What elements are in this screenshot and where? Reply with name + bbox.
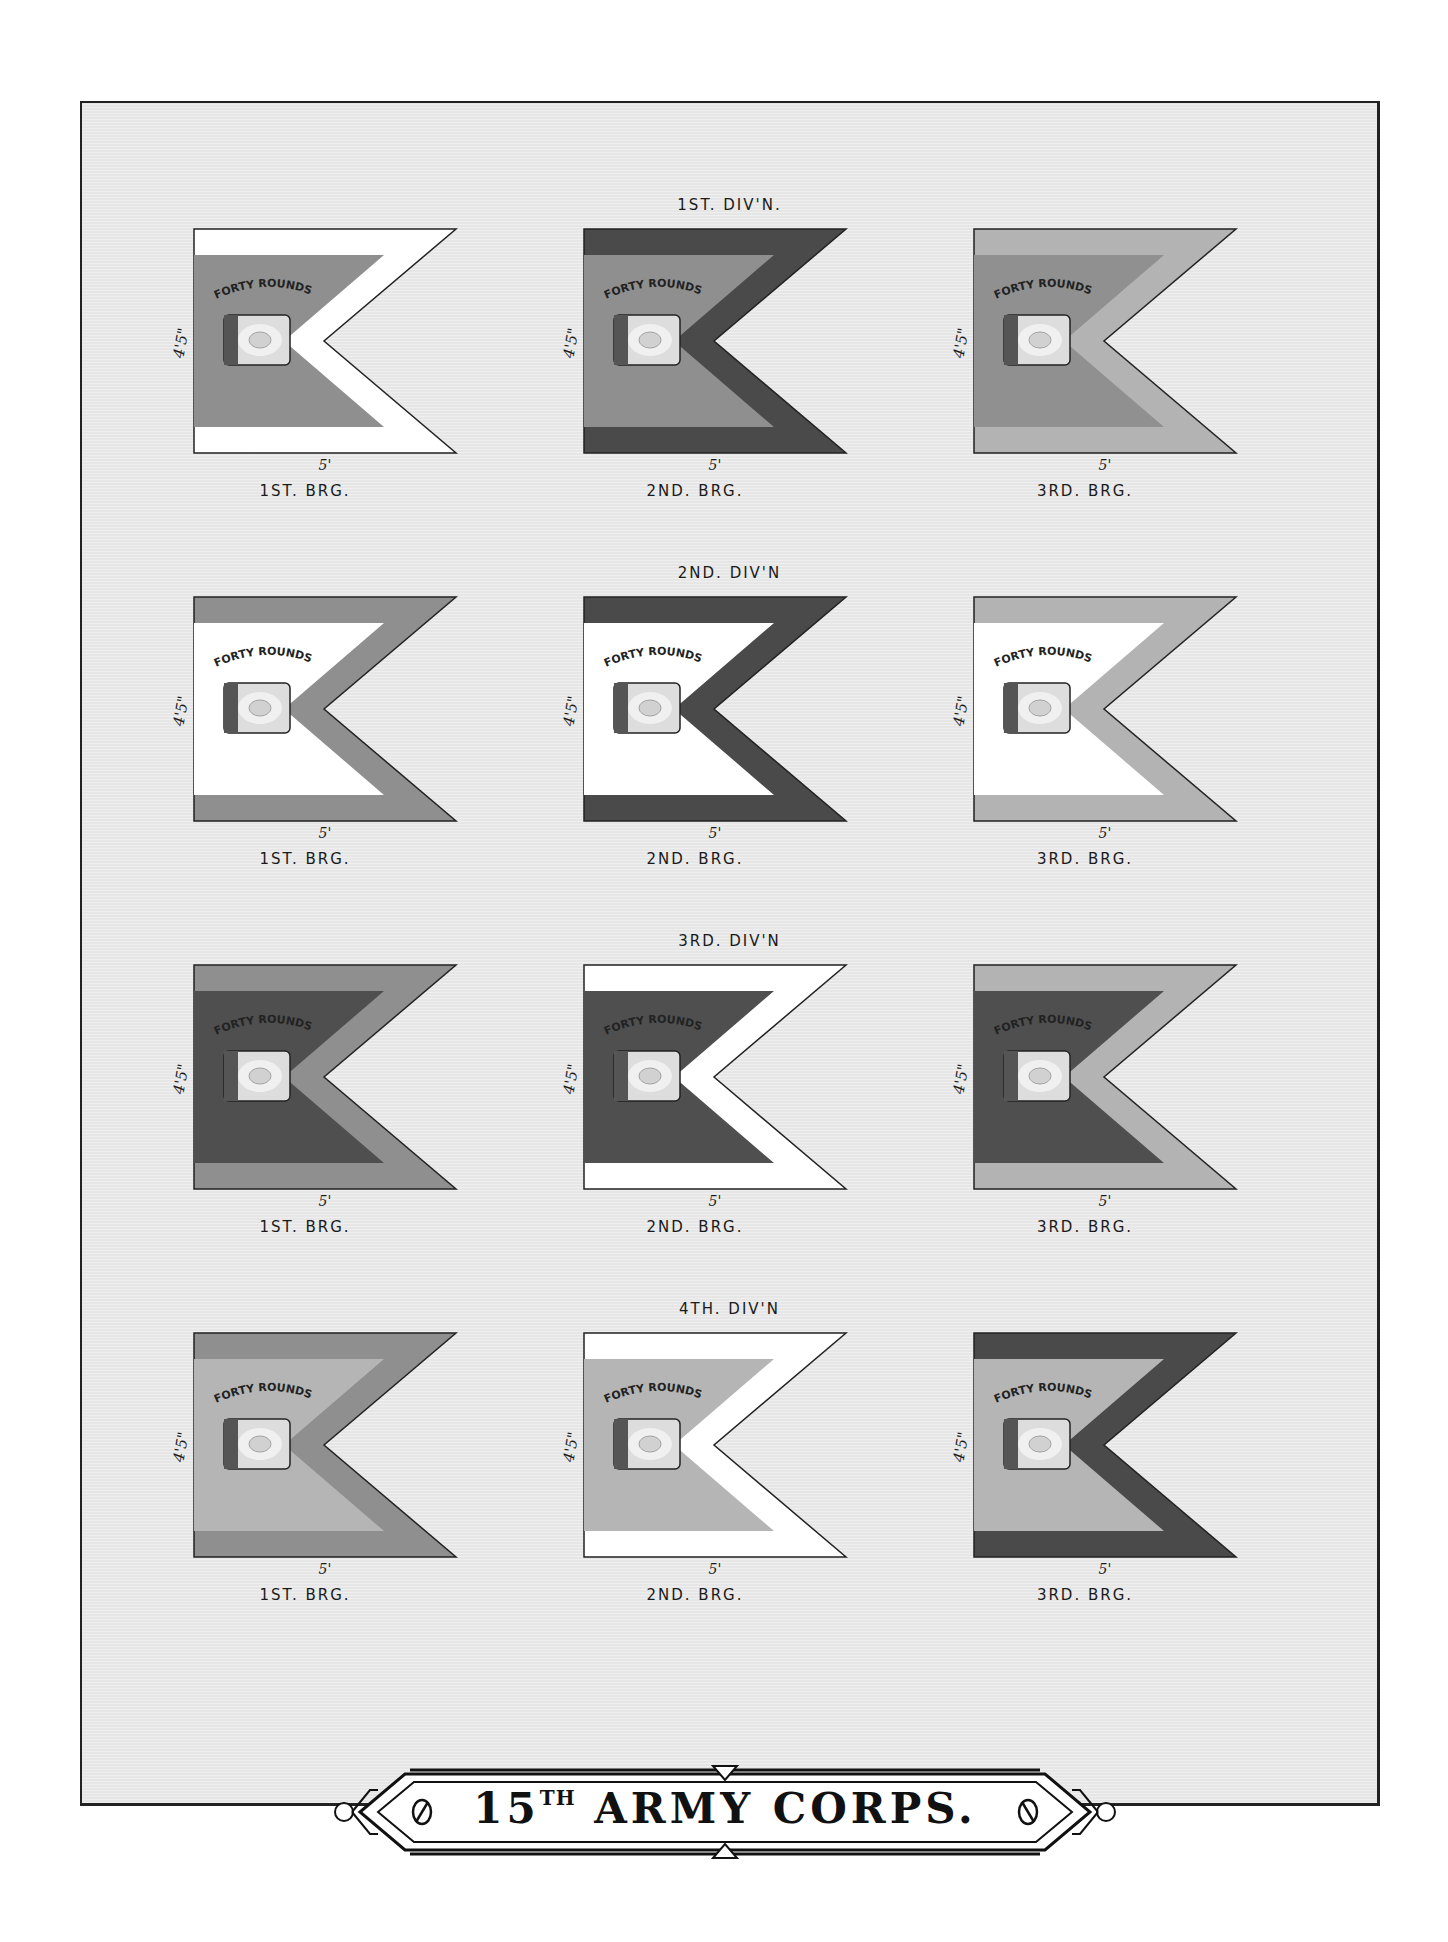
brigade-label: 2ND. BRG. [595, 1586, 795, 1604]
brigade-label: 3RD. BRG. [985, 482, 1185, 500]
swallowtail-guidon-icon: FORTY ROUNDS [584, 229, 846, 453]
swallowtail-guidon-icon: FORTY ROUNDS [194, 229, 456, 453]
width-dimension: 5' [1085, 1561, 1125, 1577]
swallowtail-guidon-icon: FORTY ROUNDS [974, 229, 1236, 453]
swallowtail-guidon-icon: FORTY ROUNDS [584, 1333, 846, 1557]
width-dimension: 5' [695, 1193, 735, 1209]
brigade-label: 1ST. BRG. [205, 850, 405, 868]
cartridge-box-icon [614, 1419, 680, 1469]
swallowtail-guidon-icon: FORTY ROUNDS [194, 1333, 456, 1557]
swallowtail-guidon-icon: FORTY ROUNDS [974, 597, 1236, 821]
flag-d1-b3: FORTY ROUNDS 4'5"5'3RD. BRG. [950, 229, 1270, 529]
division-title-2: 2ND. DIV'N [82, 564, 1377, 582]
height-dimension: 4'5" [170, 1063, 193, 1096]
brigade-label: 1ST. BRG. [205, 1218, 405, 1236]
height-dimension: 4'5" [560, 1063, 583, 1096]
swallowtail-guidon-icon: FORTY ROUNDS [974, 965, 1236, 1189]
title-number: 15 [473, 1784, 539, 1833]
brigade-label: 1ST. BRG. [205, 482, 405, 500]
height-dimension: 4'5" [170, 695, 193, 728]
brigade-label: 3RD. BRG. [985, 1218, 1185, 1236]
flag-d4-b2: FORTY ROUNDS 4'5"5'2ND. BRG. [560, 1333, 880, 1633]
plate-title: 15TH ARMY CORPS. [330, 1784, 1120, 1833]
width-dimension: 5' [1085, 1193, 1125, 1209]
swallowtail-guidon-icon: FORTY ROUNDS [584, 597, 846, 821]
cartridge-box-icon [1004, 1419, 1070, 1469]
brigade-label: 2ND. BRG. [595, 1218, 795, 1236]
flag-d4-b3: FORTY ROUNDS 4'5"5'3RD. BRG. [950, 1333, 1270, 1633]
height-dimension: 4'5" [950, 327, 973, 360]
cartridge-box-icon [1004, 1051, 1070, 1101]
height-dimension: 4'5" [560, 1431, 583, 1464]
brigade-label: 2ND. BRG. [595, 850, 795, 868]
cartridge-box-icon [224, 1051, 290, 1101]
width-dimension: 5' [305, 1561, 345, 1577]
cartridge-box-icon [1004, 683, 1070, 733]
flag-d3-b1: FORTY ROUNDS 4'5"5'1ST. BRG. [170, 965, 490, 1265]
cartridge-box-icon [614, 683, 680, 733]
flag-d3-b2: FORTY ROUNDS 4'5"5'2ND. BRG. [560, 965, 880, 1265]
swallowtail-guidon-icon: FORTY ROUNDS [194, 597, 456, 821]
height-dimension: 4'5" [950, 1063, 973, 1096]
swallowtail-guidon-icon: FORTY ROUNDS [194, 965, 456, 1189]
width-dimension: 5' [305, 825, 345, 841]
brigade-label: 2ND. BRG. [595, 482, 795, 500]
flag-d2-b1: FORTY ROUNDS 4'5"5'1ST. BRG. [170, 597, 490, 897]
title-suffix: TH [540, 1786, 576, 1810]
swallowtail-guidon-icon: FORTY ROUNDS [584, 965, 846, 1189]
flag-d1-b1: FORTY ROUNDS 4'5"5'1ST. BRG. [170, 229, 490, 529]
flag-d4-b1: FORTY ROUNDS 4'5"5'1ST. BRG. [170, 1333, 490, 1633]
plate-frame: 1ST. DIV'N. 2ND. DIV'N 3RD. DIV'N 4TH. D… [80, 101, 1380, 1806]
cartridge-box-icon [614, 1051, 680, 1101]
title-banner: 15TH ARMY CORPS. [330, 1762, 1120, 1862]
width-dimension: 5' [695, 825, 735, 841]
cartridge-box-icon [1004, 315, 1070, 365]
flag-d3-b3: FORTY ROUNDS 4'5"5'3RD. BRG. [950, 965, 1270, 1265]
height-dimension: 4'5" [950, 695, 973, 728]
brigade-label: 1ST. BRG. [205, 1586, 405, 1604]
height-dimension: 4'5" [560, 327, 583, 360]
division-title-1: 1ST. DIV'N. [82, 196, 1377, 214]
cartridge-box-icon [224, 683, 290, 733]
brigade-label: 3RD. BRG. [985, 850, 1185, 868]
height-dimension: 4'5" [950, 1431, 973, 1464]
width-dimension: 5' [1085, 825, 1125, 841]
flag-d2-b2: FORTY ROUNDS 4'5"5'2ND. BRG. [560, 597, 880, 897]
flag-d2-b3: FORTY ROUNDS 4'5"5'3RD. BRG. [950, 597, 1270, 897]
flag-d1-b2: FORTY ROUNDS 4'5"5'2ND. BRG. [560, 229, 880, 529]
cartridge-box-icon [224, 315, 290, 365]
division-title-3: 3RD. DIV'N [82, 932, 1377, 950]
width-dimension: 5' [1085, 457, 1125, 473]
width-dimension: 5' [305, 457, 345, 473]
swallowtail-guidon-icon: FORTY ROUNDS [974, 1333, 1236, 1557]
height-dimension: 4'5" [170, 1431, 193, 1464]
height-dimension: 4'5" [560, 695, 583, 728]
division-title-4: 4TH. DIV'N [82, 1300, 1377, 1318]
cartridge-box-icon [614, 315, 680, 365]
width-dimension: 5' [305, 1193, 345, 1209]
cartridge-box-icon [224, 1419, 290, 1469]
width-dimension: 5' [695, 457, 735, 473]
title-text: ARMY CORPS. [594, 1784, 977, 1833]
brigade-label: 3RD. BRG. [985, 1586, 1185, 1604]
height-dimension: 4'5" [170, 327, 193, 360]
width-dimension: 5' [695, 1561, 735, 1577]
